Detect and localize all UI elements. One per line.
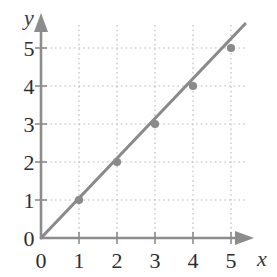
x-tick-label-4: 4 (188, 248, 199, 273)
y-tick-label-4: 4 (24, 74, 35, 99)
y-tick-label-5: 5 (24, 36, 35, 61)
y-axis-tick-labels: 1 2 3 4 5 0 (24, 36, 35, 251)
data-point-3-3 (151, 120, 159, 128)
data-point-4-4 (189, 82, 197, 90)
data-point-1-1 (75, 196, 83, 204)
x-tick-label-3: 3 (150, 248, 161, 273)
y-axis-arrow-icon (34, 13, 48, 32)
plot-canvas: 1 2 3 4 5 0 0 1 2 3 4 5 y x (0, 0, 277, 277)
x-tick-label-5: 5 (226, 248, 237, 273)
horizontal-grid-lines (41, 48, 246, 200)
y-tick-label-2: 2 (24, 150, 35, 175)
data-series-y-equals-x (41, 24, 245, 238)
y-axis-label: y (22, 5, 34, 30)
series-line (41, 24, 245, 238)
x-tick-label-2: 2 (112, 248, 123, 273)
y-tick-label-0: 0 (24, 226, 35, 251)
vertical-grid-lines (79, 25, 231, 238)
y-tick-label-3: 3 (24, 112, 35, 137)
y-tick-label-1: 1 (24, 188, 35, 213)
x-tick-label-1: 1 (74, 248, 85, 273)
x-axis-arrow-icon (235, 231, 254, 245)
data-point-2-2 (113, 158, 121, 166)
x-tick-label-0: 0 (36, 248, 47, 273)
x-axis-tick-labels: 0 1 2 3 4 5 (36, 248, 237, 273)
data-point-5-5 (227, 44, 235, 52)
coordinate-plot-figure: 1 2 3 4 5 0 0 1 2 3 4 5 y x (0, 0, 277, 277)
x-axis-label: x (256, 246, 267, 271)
